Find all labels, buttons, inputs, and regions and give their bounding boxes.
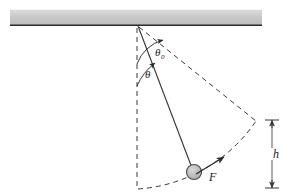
ceiling-support-bar [10, 10, 262, 25]
angle-theta-zero-label: θ0 [155, 46, 165, 61]
physics-diagram-figure: θ0 θ F h [0, 0, 299, 196]
theta-zero-subscript: 0 [161, 53, 165, 61]
ceiling-bar-fill [10, 10, 262, 25]
height-dimension-label: h [273, 147, 279, 161]
diagram-canvas: θ0 θ F h [0, 0, 299, 196]
angle-theta-label: θ [145, 68, 151, 80]
pendulum-rod [138, 26, 192, 168]
force-vector-label: F [208, 170, 217, 184]
